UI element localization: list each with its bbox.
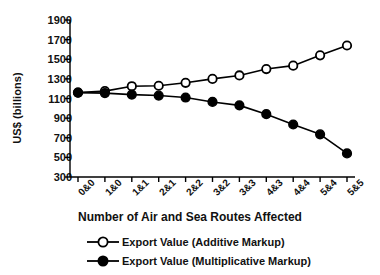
x-axis-tick-label: 3&3 (237, 177, 258, 198)
legend-item-multiplicative: Export Value (Multiplicative Markup) (0, 251, 380, 270)
x-axis-tick-label: 2&1 (157, 177, 178, 198)
legend-marker-open-circle-icon (86, 235, 120, 249)
x-axis-title: Number of Air and Sea Routes Affected (0, 210, 380, 224)
legend-item-additive: Export Value (Additive Markup) (0, 232, 380, 251)
x-axis-tick-label: 0&0 (76, 177, 97, 198)
x-axis-tick-label: 5&5 (345, 177, 366, 198)
legend-label-additive: Export Value (Additive Markup) (120, 236, 285, 248)
x-axis-tick-label: 4&4 (291, 177, 312, 198)
x-axis-tick-label: 4&3 (264, 177, 285, 198)
x-axis-tick-label: 2&2 (184, 177, 205, 198)
x-axis-tick-label: 1&1 (130, 177, 151, 198)
x-axis-tick-labels: 0&01&01&12&12&23&23&34&34&45&45&5 (60, 180, 370, 214)
legend-label-multiplicative: Export Value (Multiplicative Markup) (120, 255, 311, 267)
x-axis-tick-label: 5&4 (318, 177, 339, 198)
legend-marker-filled-circle-icon (86, 254, 120, 268)
x-axis-tick-label: 3&2 (211, 177, 232, 198)
x-axis-tick-label: 1&0 (103, 177, 124, 198)
chart-legend: Export Value (Additive Markup) Export Va… (0, 232, 380, 270)
chart-figure: US$ (billions) 3005007009001100130015001… (0, 0, 380, 275)
